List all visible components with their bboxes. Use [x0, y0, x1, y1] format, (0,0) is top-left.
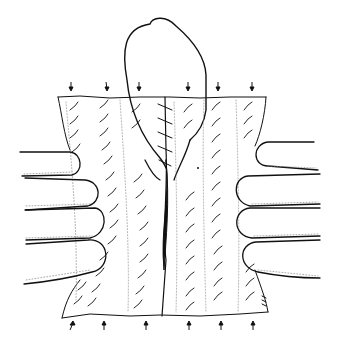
arrow-down-icon: [186, 82, 190, 91]
arrow-down-icon: [250, 82, 254, 91]
arrow-up-icon: [70, 321, 75, 330]
left-hand: [20, 152, 106, 284]
dot-mark: [197, 167, 199, 169]
tissue-top-edge: [58, 96, 266, 98]
incision-gap: [163, 160, 168, 270]
right-hand: [236, 142, 320, 278]
arrow-up-icon: [251, 321, 255, 330]
arrow-down-icon: [105, 82, 109, 91]
right-hand-stipple: [252, 166, 318, 276]
hatch-marks: [70, 100, 254, 310]
surgical-illustration: [0, 0, 341, 346]
flap-inner-left: [145, 160, 160, 180]
arrow-up-icon: [144, 321, 148, 330]
arrow-up-icon: [187, 321, 191, 330]
illustration-canvas: [0, 0, 341, 346]
tissue-bottom-edge: [62, 312, 268, 318]
tissue-right-edge: [255, 97, 266, 146]
left-hand-stipple: [24, 172, 92, 280]
flap-inner-right: [174, 140, 190, 180]
arrow-up-icon: [102, 321, 106, 330]
arrow-up-icon: [219, 321, 223, 330]
stipple-lines: [66, 100, 239, 312]
arrow-down-icon: [69, 82, 73, 91]
arrow-down-icon: [216, 82, 220, 91]
arrow-down-icon: [137, 82, 141, 91]
bottom-arrows: [70, 321, 255, 330]
top-arrows: [69, 82, 254, 91]
tissue-bottom-left: [62, 280, 80, 318]
